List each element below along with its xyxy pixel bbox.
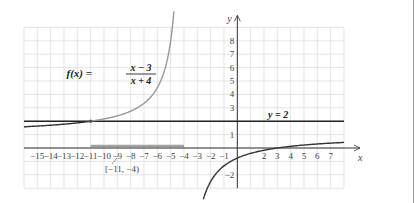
y-tick-label: 1 (230, 130, 235, 140)
y-tick-label: 7 (230, 49, 235, 59)
x-tick-label: −12 (70, 151, 84, 161)
interval-label: [−11, −4) (105, 164, 139, 174)
function-curve-left-lower (24, 121, 90, 127)
y-tick-label: 6 (230, 63, 235, 73)
y-tick-label: 3 (230, 103, 235, 113)
x-tick-label: 7 (328, 151, 333, 161)
x-tick-label: −9 (113, 151, 123, 161)
y-tick-label: −2 (225, 170, 235, 180)
function-label: f(x) = (66, 67, 92, 80)
x-tick-label: −4 (179, 151, 189, 161)
y-tick-label: 5 (230, 76, 235, 86)
y-axis-label: y (226, 13, 232, 24)
x-tick-label: −3 (193, 151, 203, 161)
y-tick-label: 8 (230, 36, 235, 46)
function-numerator: x − 3 (129, 62, 151, 73)
x-tick-label: 5 (302, 151, 307, 161)
graph-figure: xy−15−14−13−12−11−10−9−8−7−6−5−4−3−2−123… (0, 0, 415, 203)
x-tick-label: −11 (84, 151, 98, 161)
x-tick-label: 6 (315, 151, 320, 161)
asymptote-label: y = 2 (267, 109, 288, 120)
function-denominator: x + 4 (130, 75, 152, 86)
x-tick-label: −5 (166, 151, 176, 161)
x-tick-label: 2 (262, 151, 267, 161)
x-tick-label: 3 (275, 151, 280, 161)
page-edge-divider (413, 0, 414, 203)
x-tick-label: −7 (139, 151, 149, 161)
x-axis-label: x (357, 152, 363, 163)
x-tick-label: −1 (219, 151, 229, 161)
x-tick-label: −2 (206, 151, 216, 161)
function-graph: xy−15−14−13−12−11−10−9−8−7−6−5−4−3−2−123… (0, 0, 415, 203)
x-tick-label: 4 (288, 151, 293, 161)
x-tick-label: −8 (126, 151, 136, 161)
intersection-point (89, 119, 93, 123)
y-tick-label: 4 (230, 89, 235, 99)
x-tick-label: −10 (97, 151, 112, 161)
x-tick-label: −6 (153, 151, 163, 161)
